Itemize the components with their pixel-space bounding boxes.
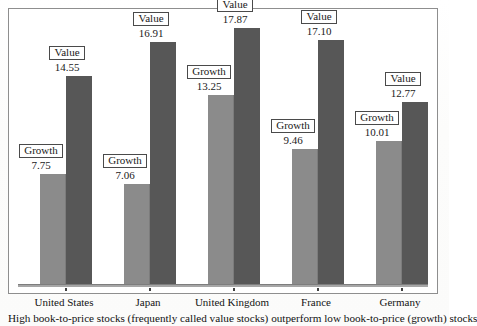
label-value-growth: 13.25 <box>185 81 233 93</box>
bars-germany <box>353 13 437 285</box>
label-value-growth: 7.06 <box>101 170 149 182</box>
bar-united-kingdom-growth[interactable] <box>208 95 234 285</box>
axis-tick-france <box>317 288 319 291</box>
label-japan-growth: Growth 7.06 <box>101 151 149 182</box>
bar-japan-growth[interactable] <box>124 184 150 285</box>
label-box-value: Value <box>217 0 252 12</box>
figure-caption-line-2: in different countries. <box>8 324 444 326</box>
label-value-value: 12.77 <box>379 88 427 100</box>
chart-frame: Growth 7.75 Value 14.55 Growth 7.06 Valu… <box>8 8 438 294</box>
bar-group-united-states: Growth 7.75 Value 14.55 <box>17 13 101 285</box>
bar-group-united-kingdom: Growth 13.25 Value 17.87 <box>185 13 269 285</box>
label-united-states-growth: Growth 7.75 <box>17 141 65 172</box>
label-germany-value: Value 12.77 <box>379 69 427 100</box>
bar-united-states-value[interactable] <box>66 76 92 285</box>
bars-japan <box>101 13 185 285</box>
label-united-kingdom-value: Value 17.87 <box>211 0 259 26</box>
bar-france-growth[interactable] <box>292 149 318 285</box>
axis-tick-japan <box>149 288 151 291</box>
label-germany-growth: Growth 10.01 <box>353 108 401 139</box>
bars-france <box>269 13 353 285</box>
axis-tick-united-kingdom <box>233 288 235 291</box>
figure-caption-line-1: High book-to-price stocks (frequently ca… <box>8 311 444 325</box>
label-value-growth: 7.75 <box>17 160 65 172</box>
label-box-growth: Growth <box>355 111 399 126</box>
label-value-value: 16.91 <box>127 28 175 40</box>
label-value-value: 17.10 <box>295 26 343 38</box>
label-box-value: Value <box>301 10 336 25</box>
label-box-growth: Growth <box>19 144 63 159</box>
plot-area: Growth 7.75 Value 14.55 Growth 7.06 Valu… <box>9 9 437 293</box>
label-box-growth: Growth <box>187 65 231 80</box>
category-label-germany: Germany <box>345 296 455 308</box>
label-value-value: 17.87 <box>211 14 259 26</box>
label-box-growth: Growth <box>271 119 315 134</box>
bar-group-france: Growth 9.46 Value 17.10 <box>269 13 353 285</box>
label-japan-value: Value 16.91 <box>127 9 175 40</box>
axis-tick-germany <box>401 288 403 291</box>
bar-germany-growth[interactable] <box>376 141 402 285</box>
bar-japan-value[interactable] <box>150 42 176 285</box>
bar-united-kingdom-value[interactable] <box>234 28 260 285</box>
bar-group-germany: Growth 10.01 Value 12.77 <box>353 13 437 285</box>
label-box-value: Value <box>385 72 420 87</box>
label-box-value: Value <box>133 12 168 27</box>
x-axis-baseline <box>18 284 428 287</box>
label-value-growth: 9.46 <box>269 135 317 147</box>
label-value-growth: 10.01 <box>353 127 401 139</box>
bar-group-japan: Growth 7.06 Value 16.91 <box>101 13 185 285</box>
bar-france-value[interactable] <box>318 40 344 285</box>
axis-tick-united-states <box>65 288 67 291</box>
label-france-growth: Growth 9.46 <box>269 116 317 147</box>
label-box-value: Value <box>49 46 84 61</box>
label-box-growth: Growth <box>103 154 147 169</box>
label-united-states-value: Value 14.55 <box>43 43 91 74</box>
label-france-value: Value 17.10 <box>295 7 343 38</box>
label-value-value: 14.55 <box>43 62 91 74</box>
label-united-kingdom-growth: Growth 13.25 <box>185 62 233 93</box>
bar-united-states-growth[interactable] <box>40 174 66 285</box>
bar-germany-value[interactable] <box>402 102 428 285</box>
bars-united-kingdom <box>185 13 269 285</box>
category-axis: United States Japan United Kingdom Franc… <box>8 296 438 310</box>
